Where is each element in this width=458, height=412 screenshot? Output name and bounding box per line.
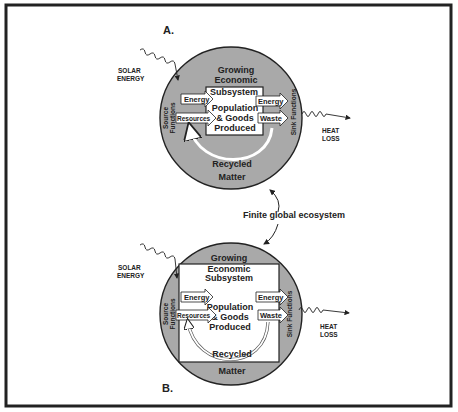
link-arrow-down xyxy=(264,224,278,244)
heat-label-b-1: HEAT xyxy=(320,323,337,330)
source-functions-label-a-2: Functions xyxy=(169,102,176,133)
center-label-b-1: Population xyxy=(207,302,254,312)
energy-input-label-b: Energy xyxy=(184,293,210,302)
waste-output-label-a: Waste xyxy=(260,114,282,123)
ecosystem-link: Finite global ecosystem xyxy=(243,190,345,244)
center-label-a-2: & Goods xyxy=(216,113,254,123)
solar-energy-wave-b xyxy=(140,244,177,278)
solar-label-b-2: ENERGY xyxy=(117,272,145,279)
recycled-label-b-2: Matter xyxy=(218,366,246,376)
recycled-label-a-1: Recycled xyxy=(212,159,252,169)
center-label-a-1: Population xyxy=(212,103,259,113)
recycled-label-a-2: Matter xyxy=(218,172,246,182)
heat-loss-wave-b xyxy=(299,308,349,314)
subsystem-label-a-1: Growing xyxy=(218,65,255,75)
source-functions-label-b-1: Source xyxy=(162,303,169,325)
solar-label-a-1: SOLAR xyxy=(118,67,141,74)
sink-functions-label-b: Sink Functions xyxy=(286,290,293,337)
recycled-label-b-1: Recycled xyxy=(212,349,252,359)
panel-a: A. Growing Economic Subsystem Population… xyxy=(117,24,350,189)
solar-energy-wave-a xyxy=(140,49,178,80)
heat-label-a-2: LOSS xyxy=(322,135,340,142)
heat-label-b-2: LOSS xyxy=(320,331,338,338)
subsystem-label-b-3: Subsystem xyxy=(205,273,253,283)
heat-label-a-1: HEAT xyxy=(322,127,339,134)
solar-label-b-1: SOLAR xyxy=(118,264,141,271)
subsystem-label-a-2: Economic xyxy=(214,75,257,85)
source-functions-label-a-1: Source xyxy=(162,107,169,129)
steady-state-economy-diagram: A. Growing Economic Subsystem Population… xyxy=(0,0,458,412)
subsystem-label-a-3: Subsystem xyxy=(210,87,258,97)
energy-input-label-a: Energy xyxy=(184,95,210,104)
finite-global-ecosystem-label: Finite global ecosystem xyxy=(243,210,345,220)
source-functions-label-b-2: Functions xyxy=(169,298,176,329)
center-label-b-2: & Goods xyxy=(211,312,249,322)
sink-functions-label-a: Sink Functions xyxy=(290,88,297,135)
energy-output-label-b: Energy xyxy=(258,293,284,302)
panel-a-label: A. xyxy=(163,24,174,36)
waste-output-label-b: Waste xyxy=(260,311,282,320)
subsystem-label-b-1: Growing xyxy=(211,253,248,263)
heat-loss-wave-a xyxy=(302,112,350,119)
panel-b: Growing Economic Subsystem Population & … xyxy=(117,243,349,394)
link-arrow-up xyxy=(270,190,279,212)
resources-input-label-b: Resources xyxy=(177,312,211,319)
center-label-a-3: Produced xyxy=(214,123,256,133)
center-label-b-3: Produced xyxy=(209,322,251,332)
resources-input-label-a: Resources xyxy=(177,115,211,122)
panel-b-label: B. xyxy=(162,382,173,394)
energy-output-label-a: Energy xyxy=(258,97,284,106)
solar-label-a-2: ENERGY xyxy=(117,75,145,82)
